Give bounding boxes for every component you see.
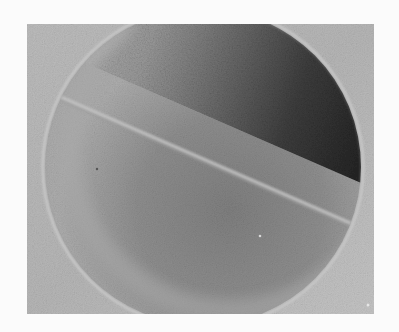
photo-frame xyxy=(27,0,390,327)
page-background: No visible text in the image. xyxy=(0,0,399,332)
photograph xyxy=(0,0,399,332)
disc-photograph-svg xyxy=(0,0,399,332)
speck xyxy=(367,304,370,307)
speck xyxy=(259,235,262,238)
speck xyxy=(96,168,98,170)
